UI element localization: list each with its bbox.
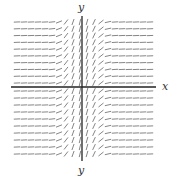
slope-segment	[93, 130, 96, 136]
slope-segment	[93, 123, 96, 129]
slope-segment	[99, 124, 104, 128]
slope-segment	[93, 116, 96, 122]
slope-segment	[49, 69, 55, 70]
slope-segment	[49, 76, 55, 77]
slope-segment	[93, 73, 96, 79]
slope-segment	[105, 139, 111, 140]
slope-segment	[105, 153, 111, 154]
slope-segment	[64, 130, 68, 135]
slope-segment	[56, 139, 62, 141]
slope-segment	[105, 42, 111, 43]
slope-segment	[79, 144, 81, 150]
slope-segment	[86, 116, 88, 122]
slope-segment	[72, 88, 74, 94]
slope-segment	[49, 126, 55, 127]
slope-segment	[49, 42, 55, 43]
slope-segment	[86, 80, 88, 86]
slope-segment	[79, 123, 81, 129]
slope-segment	[72, 95, 74, 101]
slope-segment	[56, 111, 62, 113]
slope-segment	[56, 28, 62, 30]
slope-segment	[105, 111, 111, 112]
slope-segment	[72, 151, 74, 157]
slope-segment	[99, 110, 104, 114]
slope-segment	[86, 102, 88, 108]
slope-segment	[56, 90, 62, 92]
slope-segment	[105, 21, 111, 22]
slope-segment	[99, 67, 104, 71]
slope-segment	[105, 48, 111, 49]
slope-segment	[79, 66, 81, 72]
slope-segment	[105, 76, 111, 77]
slope-segment	[105, 146, 111, 147]
slope-segment	[99, 138, 104, 142]
slope-segment	[99, 117, 104, 121]
slope-segment	[99, 27, 104, 31]
slope-segment	[93, 39, 96, 45]
slope-segment	[99, 74, 104, 78]
slope-segment	[72, 66, 74, 72]
slope-segment	[72, 60, 74, 66]
slope-segment	[93, 151, 96, 157]
slope-segment	[99, 34, 104, 38]
slope-segment	[56, 132, 62, 134]
slope-segment	[64, 123, 68, 128]
slope-segment	[64, 33, 68, 38]
slope-segment	[99, 20, 104, 24]
slope-segment	[86, 46, 88, 52]
slope-segment	[56, 48, 62, 50]
slope-segment	[64, 144, 68, 149]
slope-segment	[72, 102, 74, 108]
slope-segment	[49, 147, 55, 148]
slope-segment	[79, 95, 81, 101]
y-axis-label-bottom: y	[78, 165, 84, 176]
slope-segment	[72, 26, 74, 32]
slope-segment	[79, 130, 81, 136]
slope-segment	[93, 33, 96, 39]
slope-segment	[56, 68, 62, 70]
slope-segment	[86, 32, 88, 38]
slope-segment	[64, 19, 68, 24]
slope-segment	[49, 49, 55, 50]
slope-segment	[64, 67, 68, 72]
slope-segment	[93, 80, 96, 86]
slope-segment	[99, 145, 104, 149]
slope-segment	[64, 60, 68, 65]
slope-segment	[49, 28, 55, 29]
slope-segment	[64, 88, 68, 93]
slope-segment	[64, 151, 68, 156]
slope-segment	[105, 97, 111, 98]
slope-segment	[79, 151, 81, 157]
slope-segment	[79, 19, 81, 25]
slope-segment	[86, 19, 88, 25]
slope-segment	[49, 119, 55, 120]
slope-segment	[99, 81, 104, 85]
slope-segment	[86, 60, 88, 66]
slope-segment	[49, 112, 55, 113]
slope-segment	[49, 105, 55, 106]
slope-segment	[86, 151, 88, 157]
slope-segment	[72, 33, 74, 39]
slope-segment	[99, 152, 104, 156]
slope-segment	[93, 102, 96, 108]
slope-segment	[56, 75, 62, 77]
slope-segment	[79, 26, 81, 32]
slope-segment	[72, 19, 74, 25]
slope-segment	[105, 90, 111, 91]
slope-segment	[105, 125, 111, 126]
slope-segment	[79, 109, 81, 115]
slope-segment	[105, 69, 111, 70]
slope-segment	[79, 80, 81, 86]
slope-segment	[56, 153, 62, 155]
slope-segment	[86, 144, 88, 150]
slope-segment	[86, 53, 88, 59]
slope-segment	[79, 53, 81, 59]
slope-segment	[105, 82, 111, 83]
slope-segment	[93, 46, 96, 52]
slope-segments	[14, 19, 153, 157]
slope-segment	[93, 19, 96, 25]
slope-segment	[64, 53, 68, 58]
slope-segment	[105, 118, 111, 119]
x-axis-label: x	[162, 81, 168, 92]
slope-field-plot	[0, 0, 173, 177]
